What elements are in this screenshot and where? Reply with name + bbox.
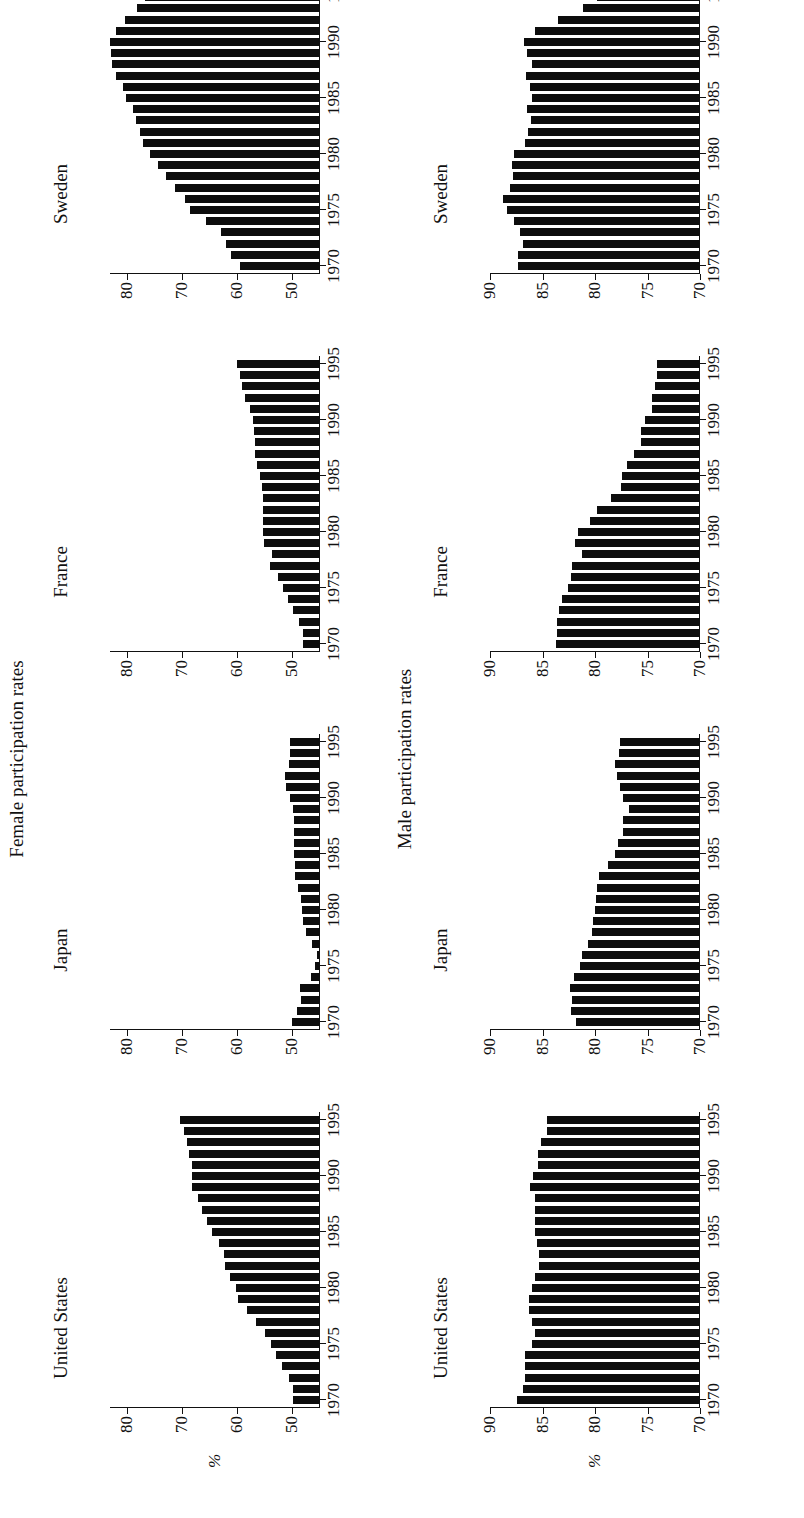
bar xyxy=(588,940,700,948)
panel-title: Sweden xyxy=(430,44,452,344)
bar xyxy=(645,416,700,424)
bar xyxy=(136,116,320,124)
bar xyxy=(514,217,700,225)
bar xyxy=(189,1150,320,1158)
bar xyxy=(301,895,320,903)
bar xyxy=(568,584,700,592)
x-tick-label: 1970 xyxy=(324,241,344,291)
y-tick-label: 60 xyxy=(228,282,245,318)
bar xyxy=(137,4,320,12)
y-tick xyxy=(292,1408,293,1414)
bar xyxy=(312,940,320,948)
bar xyxy=(226,240,320,248)
bar xyxy=(611,494,700,502)
bar xyxy=(293,805,320,813)
x-tick-label: 1985 xyxy=(704,73,724,123)
bar xyxy=(207,1217,320,1225)
bar xyxy=(532,1284,700,1292)
bar xyxy=(116,72,320,80)
bar xyxy=(597,0,700,1)
y-tick xyxy=(648,1408,649,1414)
bar xyxy=(535,1206,700,1214)
y-tick xyxy=(595,652,596,658)
bar xyxy=(315,962,320,970)
x-tick-label: 1985 xyxy=(704,1207,724,1257)
x-tick-label: 1975 xyxy=(704,185,724,235)
bar xyxy=(242,382,320,390)
y-tick-label: 75 xyxy=(639,282,656,318)
bar xyxy=(510,184,700,192)
y-tick xyxy=(700,274,701,280)
y-tick xyxy=(700,1030,701,1036)
bar xyxy=(532,1340,700,1348)
plot-area: 50607080%197019751980198519901995 xyxy=(110,1112,320,1408)
bar xyxy=(627,461,701,469)
bar xyxy=(224,1250,320,1258)
y-tick xyxy=(490,1408,491,1414)
bar xyxy=(535,1194,700,1202)
bar xyxy=(518,262,700,270)
y-tick-label: 60 xyxy=(228,1416,245,1452)
y-tick xyxy=(490,274,491,280)
bar xyxy=(617,772,700,780)
bar xyxy=(262,483,320,491)
panel-title: France xyxy=(50,422,72,722)
bar xyxy=(618,839,700,847)
bar xyxy=(257,461,320,469)
y-tick xyxy=(543,652,544,658)
y-tick xyxy=(237,1408,238,1414)
bar xyxy=(575,539,700,547)
bar xyxy=(292,1018,320,1026)
bar xyxy=(250,405,320,413)
chart-panel: France50607080197019751980198519901995 xyxy=(50,422,380,722)
bar xyxy=(593,917,700,925)
bar xyxy=(597,506,700,514)
x-tick-label: 1980 xyxy=(324,885,344,935)
bar xyxy=(293,1396,320,1404)
bar xyxy=(559,606,700,614)
bar xyxy=(282,1362,320,1370)
bar xyxy=(245,394,320,402)
bar xyxy=(529,1295,700,1303)
bar xyxy=(143,139,320,147)
figure-canvas: Female participation rates Male particip… xyxy=(0,0,804,1518)
x-tick-label: 1985 xyxy=(324,829,344,879)
bar xyxy=(192,1161,320,1169)
bar xyxy=(530,83,700,91)
y-tick xyxy=(648,1030,649,1036)
bar xyxy=(571,573,700,581)
x-tick-label: 1975 xyxy=(324,563,344,613)
y-tick-label: 90 xyxy=(481,660,498,696)
y-tick-label: 50 xyxy=(283,660,300,696)
bar xyxy=(289,760,320,768)
y-tick xyxy=(127,1030,128,1036)
y-tick xyxy=(543,1030,544,1036)
y-tick-label: 70 xyxy=(173,1038,190,1074)
x-tick-label: 1970 xyxy=(704,997,724,1047)
bar xyxy=(641,427,700,435)
bar xyxy=(528,128,700,136)
y-tick xyxy=(648,652,649,658)
bar xyxy=(247,1306,321,1314)
y-tick xyxy=(543,1408,544,1414)
y-tick xyxy=(127,1408,128,1414)
bar xyxy=(539,1262,700,1270)
bar xyxy=(634,450,700,458)
y-tick xyxy=(237,1030,238,1036)
y-tick xyxy=(182,652,183,658)
bar xyxy=(538,1161,700,1169)
x-tick-label: 1975 xyxy=(324,185,344,235)
bar xyxy=(290,794,320,802)
panel-title: Japan xyxy=(430,800,452,1100)
y-tick-label: 80 xyxy=(586,282,603,318)
x-tick-label: 1970 xyxy=(704,619,724,669)
x-tick-label: 1980 xyxy=(324,1263,344,1313)
bar xyxy=(297,1007,320,1015)
bar xyxy=(294,816,320,824)
bar xyxy=(230,1273,320,1281)
bar xyxy=(276,1351,320,1359)
plot-area: 7075808590197019751980198519901995 xyxy=(490,734,700,1030)
bar xyxy=(290,738,320,746)
bar xyxy=(265,1329,320,1337)
bar xyxy=(530,1183,700,1191)
